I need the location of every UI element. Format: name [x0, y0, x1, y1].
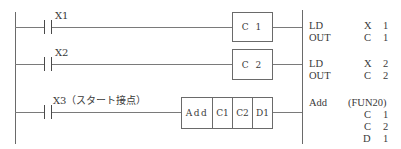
rung-1-instr-2-mnemonic: OUT [309, 32, 331, 44]
rung-2-wire-left [15, 64, 44, 65]
rung-1-wire-mid [52, 27, 232, 28]
contact-x1-label: X1 [55, 10, 68, 21]
counter-c2-coil-box: C 2 [232, 49, 273, 80]
rung-1-wire-right [273, 27, 302, 28]
rung-2-wire-right [273, 64, 302, 65]
rung-3-operand-3: D [363, 133, 371, 145]
rung-2-instr-2-number: 2 [383, 70, 388, 82]
rung-3-operand-2: C [364, 121, 371, 133]
rung-1-instr-1-operand: X [364, 20, 372, 32]
rung-3-wire-left [15, 112, 44, 113]
rung-2-instr-1-mnemonic: LD [309, 58, 323, 70]
contact-x2-bar-left [44, 57, 45, 71]
rung-2-instr-1-number: 2 [383, 58, 388, 70]
add-block-cell-function: Add [181, 97, 213, 129]
rung-2-instr-1-operand: X [364, 58, 372, 70]
contact-x2-label: X2 [55, 47, 68, 58]
rung-1-instr-1-mnemonic: LD [309, 20, 323, 32]
rung-2-instr-2-mnemonic: OUT [309, 70, 331, 82]
left-power-rail [15, 12, 16, 144]
rung-1-instr-2-number: 1 [383, 32, 388, 44]
rung-2-instr-2-operand: C [364, 70, 371, 82]
rung-3-wire-right [273, 112, 302, 113]
add-block-cell-destination: D1 [252, 97, 273, 129]
right-power-rail [302, 10, 303, 144]
rung-3-instr-mnemonic: Add [309, 97, 327, 109]
add-block-cell-source1: C1 [212, 97, 233, 129]
rung-3-wire-mid [52, 112, 181, 113]
rung-3-operand-2-number: 2 [383, 121, 388, 133]
rung-1-wire-left [15, 27, 44, 28]
rung-3-operand-3-number: 1 [383, 133, 388, 145]
rung-3-function-code: (FUN20) [348, 97, 387, 109]
contact-x3-bar-left [44, 105, 45, 119]
contact-x1-bar-left [44, 20, 45, 34]
rung-2-wire-mid [52, 64, 232, 65]
add-block-cell-source2: C2 [232, 97, 253, 129]
rung-1-instr-2-operand: C [364, 32, 371, 44]
counter-c1-coil-box: C 1 [232, 12, 273, 42]
rung-3-operand-1: C [364, 109, 371, 121]
rung-3-operand-1-number: 1 [383, 109, 388, 121]
rung-1-instr-1-number: 1 [383, 20, 388, 32]
contact-x3-start-label: X3（スタート接点） [53, 95, 146, 106]
